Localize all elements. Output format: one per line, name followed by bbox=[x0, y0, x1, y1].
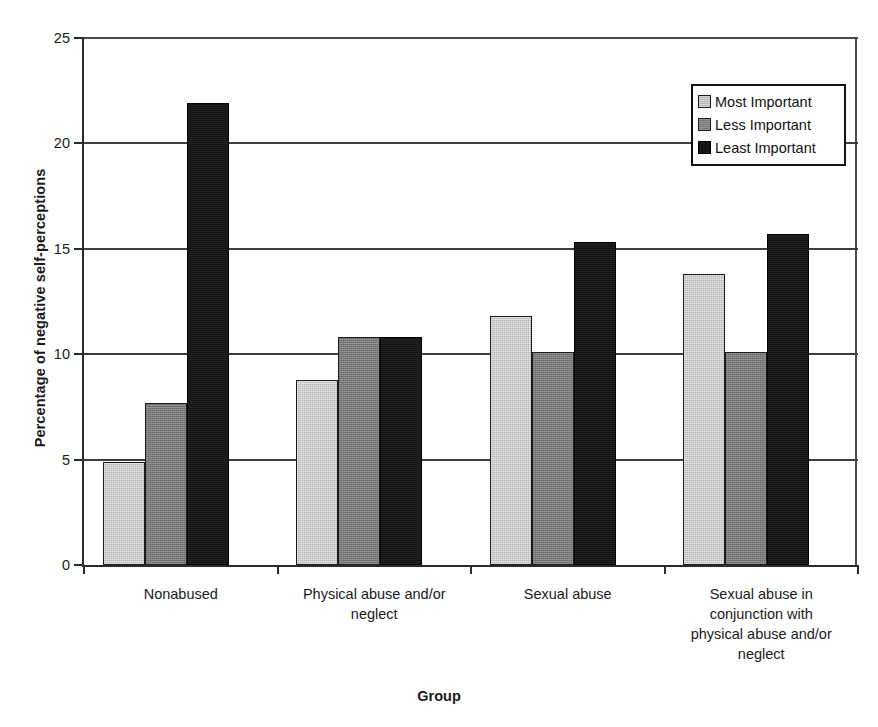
bar-least-group-1 bbox=[187, 103, 229, 565]
x-axis-category-label-line: physical abuse and/or bbox=[665, 624, 859, 644]
y-axis-title-label: Percentage of negative self-perceptions bbox=[32, 169, 48, 448]
y-axis-tick-label: 10 bbox=[54, 346, 70, 362]
legend-label-least: Least Important bbox=[715, 140, 816, 156]
y-axis-tick-label: 5 bbox=[62, 452, 70, 468]
y-axis-tick bbox=[74, 459, 84, 461]
y-axis-title: Percentage of negative self-perceptions bbox=[32, 73, 48, 543]
x-axis-category-label-line: neglect bbox=[665, 644, 859, 664]
x-axis-category-label-line: conjunction with bbox=[665, 604, 859, 624]
x-axis-category-label-line: Sexual abuse in bbox=[665, 584, 859, 604]
bar-most-group-2 bbox=[296, 380, 338, 566]
y-axis-tick-label: 15 bbox=[54, 241, 70, 257]
y-axis-tick-label: 20 bbox=[54, 135, 70, 151]
y-axis-tick-label: 0 bbox=[62, 557, 70, 573]
x-axis-category-label: Sexual abuse bbox=[471, 584, 665, 604]
legend-item-less[interactable]: Less Important bbox=[698, 113, 839, 136]
x-axis-category-label: Sexual abuse inconjunction withphysical … bbox=[665, 584, 859, 664]
bar-most-group-3 bbox=[490, 316, 532, 565]
y-axis-tick bbox=[74, 142, 84, 144]
y-axis-tick bbox=[74, 353, 84, 355]
legend-swatch-less-icon bbox=[698, 118, 711, 131]
x-axis-tick bbox=[664, 565, 666, 574]
bar-most-group-1 bbox=[103, 462, 145, 565]
bar-most-group-4 bbox=[683, 274, 725, 565]
legend-item-least[interactable]: Least Important bbox=[698, 136, 839, 159]
bar-less-group-4 bbox=[725, 352, 767, 565]
x-axis-tick bbox=[277, 565, 279, 574]
legend-swatch-most-icon bbox=[698, 95, 711, 108]
bar-least-group-2 bbox=[380, 337, 422, 565]
legend-item-most[interactable]: Most Important bbox=[698, 90, 839, 113]
x-axis-tick bbox=[857, 565, 859, 574]
bar-less-group-2 bbox=[338, 337, 380, 565]
bar-chart-figure: ......... Percentage of negative self-pe… bbox=[0, 0, 878, 727]
top-crop-artifact: ......... bbox=[470, 0, 730, 5]
legend-label-most: Most Important bbox=[715, 94, 812, 110]
x-axis-tick-origin bbox=[83, 565, 85, 574]
x-axis-title: Group bbox=[0, 688, 878, 704]
x-axis-category-label-line: Nonabused bbox=[84, 584, 278, 604]
x-axis-category-label: Physical abuse and/orneglect bbox=[278, 584, 472, 624]
legend-swatch-least-icon bbox=[698, 141, 711, 154]
y-axis-tick bbox=[74, 248, 84, 250]
bar-less-group-3 bbox=[532, 352, 574, 565]
x-axis-category-label-line: Physical abuse and/or bbox=[278, 584, 472, 604]
x-axis-category-label-line: neglect bbox=[278, 604, 472, 624]
legend-label-less: Less Important bbox=[715, 117, 811, 133]
bar-least-group-4 bbox=[767, 234, 809, 565]
x-axis-tick bbox=[470, 565, 472, 574]
chart-legend: Most Important Less Important Least Impo… bbox=[691, 84, 846, 166]
x-axis-category-label-line: Sexual abuse bbox=[471, 584, 665, 604]
y-axis-tick bbox=[74, 37, 84, 39]
y-axis-tick-label: 25 bbox=[54, 30, 70, 46]
x-axis-category-label: Nonabused bbox=[84, 584, 278, 604]
bar-least-group-3 bbox=[574, 242, 616, 565]
bar-less-group-1 bbox=[145, 403, 187, 565]
